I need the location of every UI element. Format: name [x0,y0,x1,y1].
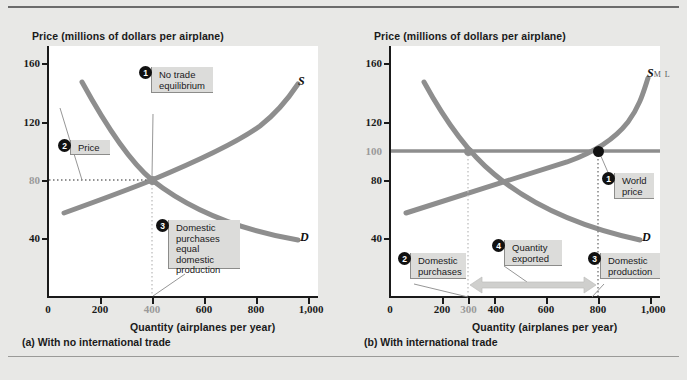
panel-a-callout-1: No trade equilibrium [151,67,213,93]
panel-a-ylabel-40: 40 [12,232,40,244]
panel-b-callout-3: Domestic production [600,253,660,279]
panel-a-ylabel-120: 120 [12,116,40,128]
panel-a-x-axis [47,296,318,298]
panel-b-callout-2: Domestic purchases [410,253,466,279]
panel-a-ytick-80 [42,180,49,182]
panel-b-caption: (b) With international trade [364,336,498,348]
panel-b-supply-handwritten-subscript: M L [654,70,671,79]
panel-a-equilibrium-dot [148,176,157,185]
panel-b-domestic-production-dot [593,146,604,157]
panel-b-ytick-80 [384,180,391,182]
panel-b-ylabel-120: 120 [354,116,382,128]
panel-b-x-axis [389,296,660,298]
panel-a-badge-3: 3 [156,219,169,232]
panel-a-callout-3: Domestic purchases equal domestic produc… [168,220,240,269]
panel-a-ylabel-160: 160 [12,57,40,69]
panel-a-ytick-160 [42,63,49,65]
panel-a-xlabel-200: 200 [84,303,116,315]
panel-a-xlabel-0: 0 [36,303,60,315]
top-rule [8,6,679,8]
panel-b-callout-1: World price [614,173,654,199]
panel-b-xlabel-1000: 1,000 [634,303,672,315]
panel-b-badge-2: 2 [398,252,411,265]
panel-b-y-axis-title: Price (millions of dollars per airplane) [374,30,566,42]
figure-container: Price (millions of dollars per airplane)… [0,0,687,380]
panel-a-xlabel-1000: 1,000 [292,303,330,315]
bottom-rule [8,356,679,357]
panel-a-ytick-40 [42,238,49,240]
panel-a-badge-2: 2 [58,139,71,152]
panel-b-badge-3: 3 [588,252,601,265]
panel-b-supply-letter: S [647,66,654,80]
panel-b-ytick-120 [384,122,391,124]
panel-a-xlabel-600: 600 [188,303,220,315]
panel-a-y-axis-title: Price (millions of dollars per airplane) [32,30,224,42]
panel-b-ylabel-100: 100 [354,145,382,157]
panel-b-xlabel-800: 800 [584,303,612,315]
panel-b-xlabel-200: 200 [428,303,456,315]
panel-b-badge-4: 4 [492,239,505,252]
panel-b-international-trade: Price (millions of dollars per airplane)… [352,14,679,352]
panel-b-callout-4: Quantity exported [504,240,562,266]
panel-a-xlabel-800: 800 [240,303,272,315]
panel-a-caption: (a) With no international trade [22,336,171,348]
panel-b-domestic-purchases-dot [464,147,473,156]
panel-b-ytick-40 [384,238,391,240]
panel-b-ytick-160 [384,63,391,65]
panel-a-no-trade: Price (millions of dollars per airplane)… [10,14,337,352]
panel-a-ytick-120 [42,122,49,124]
panel-b-xlabel-0: 0 [378,303,402,315]
panel-b-xlabel-400: 400 [482,303,510,315]
panel-b-xlabel-600: 600 [532,303,560,315]
panel-a-y-axis [47,46,49,298]
panel-b-supply-label: SM L [647,66,671,81]
panel-b-y-axis [389,46,391,298]
panel-b-demand-label: D [642,230,651,245]
panel-b-x-axis-title: Quantity (airplanes per year) [472,321,617,333]
panel-a-callout-2: Price [70,140,110,155]
panel-b-xlabel-300: 300 [455,303,482,315]
panel-a-demand-label: D [300,230,309,245]
panel-a-x-axis-title: Quantity (airplanes per year) [130,321,275,333]
panel-b-ylabel-160: 160 [354,57,382,69]
panel-a-xlabel-400: 400 [136,303,168,315]
panel-b-ylabel-80: 80 [354,174,382,186]
panel-b-ylabel-40: 40 [354,232,382,244]
panel-a-supply-label: S [298,74,305,89]
panel-a-badge-1: 1 [139,66,152,79]
panel-a-ylabel-80: 80 [12,174,40,186]
panel-b-badge-1: 1 [602,172,615,185]
